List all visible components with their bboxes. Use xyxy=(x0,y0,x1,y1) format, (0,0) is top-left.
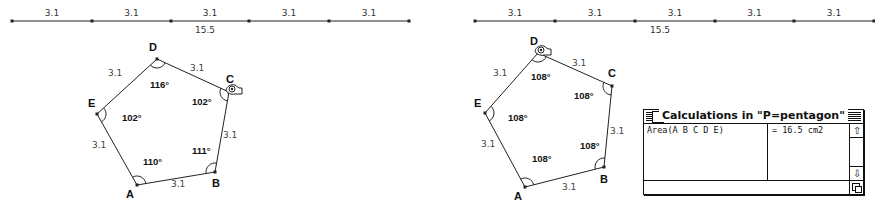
segment-point[interactable] xyxy=(408,20,411,23)
vertex-label-E: E xyxy=(474,97,481,109)
segment-point[interactable] xyxy=(91,20,94,23)
side-length-label: 3.1 xyxy=(92,140,106,150)
side-length-label: 3.1 xyxy=(572,58,586,68)
calc-table: Area(A B C D E) = 16.5 cm2 xyxy=(644,124,849,180)
scroll-down-arrow-icon[interactable]: ⇩ xyxy=(850,166,863,180)
vertex-point-D[interactable] xyxy=(156,58,159,61)
vertex-label-A: A xyxy=(126,188,134,200)
segment-point[interactable] xyxy=(793,20,796,23)
vertex-point-C[interactable] xyxy=(611,85,614,88)
segment-point[interactable] xyxy=(554,20,557,23)
left-figure: 3.13.13.13.13.115.5ABCDE110°111°102°116°… xyxy=(11,8,411,200)
angle-measure-A: 108° xyxy=(532,153,552,164)
segment-length-label: 3.1 xyxy=(124,8,138,18)
angle-arc-A xyxy=(521,178,534,185)
calc-value: = 16.5 cm2 xyxy=(772,125,846,135)
vertex-point-A[interactable] xyxy=(524,186,527,189)
segment-point[interactable] xyxy=(474,20,477,23)
calc-expression[interactable]: Area(A B C D E) xyxy=(647,125,764,135)
angle-measure-E: 108° xyxy=(508,112,528,123)
segment-point[interactable] xyxy=(248,20,251,23)
segment-length-label: 3.1 xyxy=(827,8,841,18)
segment-length-label: 3.1 xyxy=(508,8,522,18)
segment-point[interactable] xyxy=(328,20,331,23)
total-length-label: 15.5 xyxy=(195,25,215,35)
value-column[interactable]: = 16.5 cm2 xyxy=(769,124,849,180)
vertex-point-E[interactable] xyxy=(484,112,487,115)
resize-square-front xyxy=(855,186,862,193)
vertex-point-B[interactable] xyxy=(214,171,217,174)
side-length-label: 3.1 xyxy=(562,182,576,192)
angle-measure-C: 108° xyxy=(574,90,594,101)
segment-length-label: 3.1 xyxy=(668,8,682,18)
side-length-label: 3.1 xyxy=(108,68,122,78)
vertex-point-E[interactable] xyxy=(96,113,99,116)
angle-arc-E xyxy=(489,106,494,121)
angle-measure-E: 102° xyxy=(122,112,142,123)
vertex-point-B[interactable] xyxy=(603,166,606,169)
angle-measure-D: 108° xyxy=(531,71,551,82)
vertex-label-B: B xyxy=(212,177,220,189)
vertex-label-C: C xyxy=(226,73,234,85)
segment-point[interactable] xyxy=(170,20,173,23)
segment-point[interactable] xyxy=(634,20,637,23)
vertex-label-A: A xyxy=(514,190,522,202)
angle-arc-E xyxy=(101,108,106,122)
side-length-label: 3.1 xyxy=(190,63,204,73)
total-length-label: 15.5 xyxy=(650,25,670,35)
angle-measure-C: 102° xyxy=(192,96,212,107)
segment-point[interactable] xyxy=(714,20,717,23)
angle-measure-B: 108° xyxy=(580,140,600,151)
scroll-up-arrow-icon[interactable]: ⇧ xyxy=(850,124,863,138)
segment-length-label: 3.1 xyxy=(45,8,59,18)
vertical-scrollbar[interactable]: ⇧ ⇩ xyxy=(849,124,863,180)
segment-point[interactable] xyxy=(11,20,14,23)
angle-measure-A: 110° xyxy=(143,156,162,167)
window-titlebar[interactable]: Calculations in "P=pentagon" xyxy=(644,110,863,124)
vertex-label-C: C xyxy=(608,67,616,79)
vertex-label-B: B xyxy=(600,173,608,185)
angle-measure-B: 111° xyxy=(192,145,211,156)
side-length-label: 3.1 xyxy=(223,130,237,140)
segment-length-label: 3.1 xyxy=(203,8,217,18)
grab-hand-cursor-icon xyxy=(226,85,242,95)
segment-length-label: 3.1 xyxy=(588,8,602,18)
side-length-label: 3.1 xyxy=(171,179,185,189)
side-length-label: 3.1 xyxy=(493,68,507,78)
vertex-label-D: D xyxy=(149,41,157,53)
resize-box-icon[interactable] xyxy=(849,180,863,195)
calculations-window[interactable]: Calculations in "P=pentagon" Area(A B C … xyxy=(643,109,864,195)
vertex-label-D: D xyxy=(530,35,538,47)
vertex-point-A[interactable] xyxy=(136,184,139,187)
expression-column[interactable]: Area(A B C D E) xyxy=(644,124,768,180)
grab-hand-cursor-icon xyxy=(535,46,551,56)
side-length-label: 3.1 xyxy=(610,126,624,136)
side-length-label: 3.1 xyxy=(481,139,495,149)
window-title: Calculations in "P=pentagon" xyxy=(644,109,863,122)
segment-length-label: 3.1 xyxy=(282,8,296,18)
segment-length-label: 3.1 xyxy=(362,8,376,18)
vertex-label-E: E xyxy=(88,97,95,109)
horizontal-scroll-area[interactable] xyxy=(644,180,849,195)
angle-measure-D: 116° xyxy=(150,79,169,90)
segment-length-label: 3.1 xyxy=(747,8,761,18)
